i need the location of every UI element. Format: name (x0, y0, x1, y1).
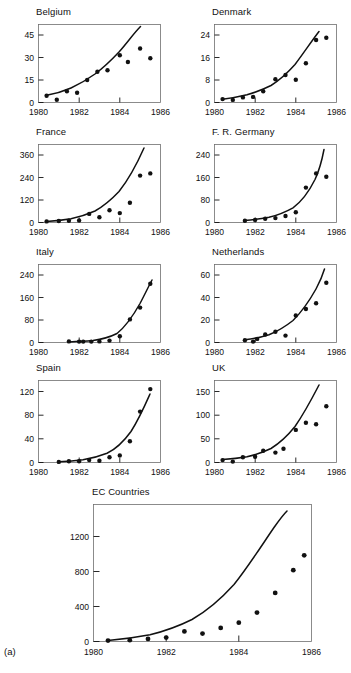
svg-text:1982: 1982 (70, 227, 89, 237)
svg-text:0: 0 (29, 458, 34, 468)
svg-text:40: 40 (200, 293, 210, 303)
panel-title-uk: UK (212, 362, 225, 373)
svg-text:240: 240 (20, 173, 35, 183)
data-points-uk (220, 404, 328, 464)
svg-text:1980: 1980 (205, 347, 224, 357)
svg-text:40: 40 (24, 434, 34, 444)
plot-denmark: 0 8 16 24 1980 1982 1984 1986 (176, 18, 351, 126)
x-tick-labels: 1980 1982 1984 1986 (29, 467, 170, 477)
y-axis-ticks (215, 155, 220, 223)
svg-text:8: 8 (205, 75, 210, 85)
svg-text:1982: 1982 (246, 227, 265, 237)
svg-text:1980: 1980 (29, 107, 48, 117)
svg-text:1984: 1984 (110, 107, 129, 117)
panel-title-denmark: Denmark (212, 6, 251, 17)
svg-text:1986: 1986 (151, 467, 170, 477)
svg-text:24: 24 (200, 30, 210, 40)
svg-text:0: 0 (29, 218, 34, 228)
svg-text:1980: 1980 (29, 227, 48, 237)
svg-text:160: 160 (20, 293, 35, 303)
y-tick-labels: 0 15 30 45 (24, 30, 34, 108)
x-axis-ticks (255, 458, 296, 463)
svg-text:30: 30 (24, 53, 34, 63)
svg-text:100: 100 (196, 410, 211, 420)
svg-text:0: 0 (205, 338, 210, 348)
fitted-curve-fr-germany (245, 150, 324, 221)
y-tick-labels: 0 80 160 240 (20, 270, 35, 348)
svg-text:1982: 1982 (246, 347, 265, 357)
x-tick-labels: 1980 1982 1984 1986 (84, 647, 321, 657)
svg-text:0: 0 (84, 637, 89, 647)
y-tick-labels: 0 80 160 240 (196, 150, 211, 228)
panel-title-italy: Italy (36, 246, 54, 257)
svg-text:1986: 1986 (327, 227, 346, 237)
fitted-curve-france (47, 148, 144, 222)
panel-title-spain: Spain (36, 362, 61, 373)
plot-ec-countries: 0 400 800 1200 1980 1982 1984 1986 (60, 499, 351, 671)
figure-panel-grid: Belgium 0 15 30 45 1980 1982 (0, 0, 351, 673)
svg-text:80: 80 (24, 410, 34, 420)
y-tick-labels: 0 400 800 1200 (70, 532, 89, 647)
x-axis-ticks (79, 98, 120, 103)
svg-text:1980: 1980 (29, 347, 48, 357)
panel-title-netherlands: Netherlands (212, 246, 264, 257)
x-tick-labels: 1980 1982 1984 1986 (29, 227, 170, 237)
data-points-denmark (220, 36, 328, 103)
x-tick-labels: 1980 1982 1984 1986 (205, 227, 346, 237)
y-tick-labels: 0 50 100 150 (196, 387, 211, 468)
data-points-spain (57, 387, 153, 464)
x-axis-ticks (166, 636, 239, 642)
y-axis-ticks (215, 392, 220, 463)
svg-text:1986: 1986 (302, 647, 321, 657)
y-tick-labels: 0 20 40 60 (200, 270, 210, 348)
svg-text:80: 80 (24, 315, 34, 325)
svg-text:20: 20 (200, 315, 210, 325)
y-axis-ticks (39, 392, 44, 463)
svg-text:1984: 1984 (110, 347, 129, 357)
plot-belgium: 0 15 30 45 1980 1982 1984 1986 (0, 18, 176, 126)
svg-text:1984: 1984 (286, 467, 305, 477)
y-tick-labels: 0 8 16 24 (200, 30, 210, 108)
svg-text:1986: 1986 (151, 107, 170, 117)
svg-text:15: 15 (24, 75, 34, 85)
svg-text:1984: 1984 (110, 467, 129, 477)
x-tick-labels: 1980 1982 1984 1986 (29, 347, 170, 357)
x-tick-labels: 1980 1982 1984 1986 (205, 107, 346, 117)
svg-text:60: 60 (200, 270, 210, 280)
svg-text:1986: 1986 (327, 467, 346, 477)
svg-text:1980: 1980 (205, 227, 224, 237)
svg-text:1984: 1984 (229, 647, 248, 657)
panel-title-ec-countries: EC Countries (92, 486, 150, 497)
x-tick-labels: 1980 1982 1984 1986 (205, 467, 346, 477)
svg-text:1984: 1984 (110, 227, 129, 237)
plot-france: 0 120 240 360 1980 1982 1984 1986 (0, 138, 176, 246)
svg-text:1982: 1982 (246, 467, 265, 477)
y-axis-ticks (215, 35, 220, 103)
svg-text:1980: 1980 (84, 647, 103, 657)
svg-text:1980: 1980 (205, 107, 224, 117)
svg-text:150: 150 (196, 387, 211, 397)
svg-text:1982: 1982 (70, 347, 89, 357)
y-tick-labels: 0 40 80 120 (20, 387, 35, 468)
svg-text:360: 360 (20, 150, 35, 160)
svg-text:120: 120 (20, 387, 35, 397)
y-tick-labels: 0 120 240 360 (20, 150, 35, 228)
svg-text:240: 240 (20, 270, 35, 280)
svg-text:160: 160 (196, 173, 211, 183)
data-points-italy (67, 282, 153, 344)
svg-text:1982: 1982 (70, 107, 89, 117)
y-axis-ticks (39, 35, 44, 103)
svg-text:120: 120 (20, 195, 35, 205)
svg-text:800: 800 (75, 567, 90, 577)
x-tick-labels: 1980 1982 1984 1986 (29, 107, 170, 117)
fitted-curve-spain (59, 394, 150, 462)
plot-spain: 0 40 80 120 1980 1982 1984 1986 (0, 374, 176, 486)
panel-title-belgium: Belgium (36, 6, 71, 17)
svg-text:240: 240 (196, 150, 211, 160)
data-points-belgium (44, 46, 152, 102)
y-axis-ticks (39, 275, 44, 343)
fitted-curve-netherlands (245, 269, 325, 340)
x-axis-ticks (255, 98, 296, 103)
y-axis-ticks (215, 275, 220, 343)
svg-text:400: 400 (75, 602, 90, 612)
